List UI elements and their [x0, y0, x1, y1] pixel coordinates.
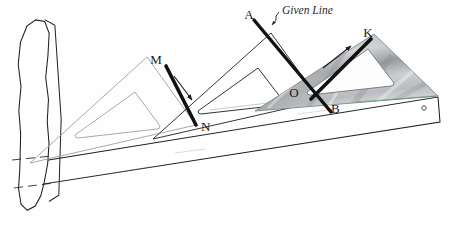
label-a: A [244, 7, 254, 22]
label-m: M [150, 52, 162, 67]
blade-hole-icon [422, 106, 426, 110]
given-line-leader [272, 12, 279, 25]
label-k: K [363, 25, 373, 40]
ghost-left-cutout [75, 92, 160, 138]
label-n: N [201, 119, 211, 134]
drafting-illustration: A Given Line M N O B K [0, 0, 456, 237]
drawing-canvas: A Given Line M N O B K [0, 0, 456, 237]
segment-mn [166, 66, 196, 125]
label-o: O [289, 85, 298, 100]
label-b: B [331, 101, 340, 116]
label-given-line: Given Line [282, 4, 333, 16]
